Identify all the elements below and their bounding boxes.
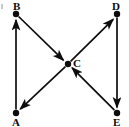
graph-figure: A B C D E — [0, 0, 129, 127]
node-label-c: C — [73, 58, 81, 69]
node-label-a: A — [12, 117, 20, 127]
graph-canvas — [0, 0, 129, 127]
node-c — [65, 61, 71, 67]
node-label-d: D — [112, 1, 120, 12]
edge-c-to-a — [20, 67, 65, 110]
edge-e-to-c — [72, 68, 114, 110]
node-label-b: B — [13, 1, 20, 12]
edge-c-to-d — [71, 19, 114, 61]
edge-b-to-c — [19, 17, 64, 61]
node-label-e: E — [113, 117, 120, 127]
